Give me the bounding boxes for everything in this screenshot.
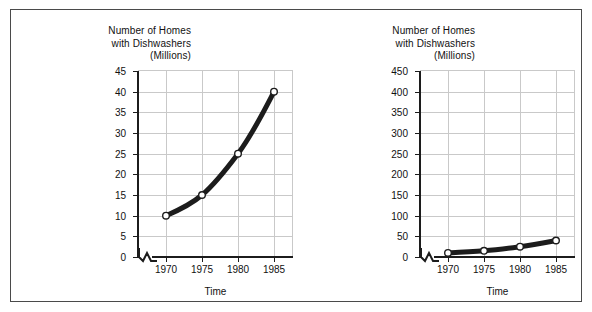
y-axis-tick: 200 [415,174,420,175]
y-axis-tick: 250 [415,154,420,155]
data-point-marker [517,243,524,250]
chart-panel-right: Number of Homes with Dishwashers (Millio… [307,10,587,303]
y-axis-tick: 20 [133,174,138,175]
x-axis-label: 1980 [227,264,249,275]
y-axis-tick: 450 [415,71,420,72]
y-axis-label: 30 [94,128,126,139]
x-axis-spine-left [152,256,293,258]
y-axis-label: 40 [94,86,126,97]
y-axis-tick: 350 [415,112,420,113]
data-point-marker [199,192,206,199]
x-axis-tick [166,257,167,262]
chart-title-line-3: (Millions) [31,50,191,63]
data-point-marker [271,88,278,95]
x-axis-label: 1970 [155,264,177,275]
series-line [166,92,274,216]
chart-title-line-3: (Millions) [315,50,475,63]
x-axis-label: 1980 [509,264,531,275]
y-axis-label: 400 [376,86,408,97]
figure-border: Number of Homes with Dishwashers (Millio… [10,9,582,302]
y-axis-label: 150 [376,190,408,201]
y-axis-tick: 45 [133,71,138,72]
y-axis-tick: 25 [133,154,138,155]
y-axis-label: 20 [94,169,126,180]
plot-area-left: 45 40 35 30 25 20 15 10 5 0 [138,70,293,256]
chart-title-line-2: with Dishwashers [31,38,191,51]
axis-break-icon [138,248,158,264]
y-axis-label: 200 [376,169,408,180]
y-axis-tick: 10 [133,216,138,217]
data-point-marker [235,150,242,157]
x-axis-label: 1985 [263,264,285,275]
x-axis-label: 1985 [545,264,567,275]
x-axis-label: 1975 [473,264,495,275]
y-axis-spine-left [137,71,139,258]
x-axis-spine-right [434,256,575,258]
plot-area-right: 450 400 350 300 250 200 150 100 50 0 [420,70,575,256]
x-axis-label: 1970 [437,264,459,275]
y-axis-tick: 30 [133,133,138,134]
y-axis-label: 35 [94,107,126,118]
y-axis-label: 25 [94,148,126,159]
y-axis-label: 100 [376,210,408,221]
x-axis-tick [448,257,449,262]
y-axis-tick: 50 [415,236,420,237]
y-axis-label: 250 [376,148,408,159]
y-axis-tick: 400 [415,92,420,93]
x-axis-title-right: Time [420,286,575,297]
y-axis-spine-right [419,71,421,258]
x-axis-label: 1975 [191,264,213,275]
y-axis-tick: 35 [133,112,138,113]
data-point-marker [163,212,170,219]
y-axis-label: 5 [94,231,126,242]
chart-title-right: Number of Homes with Dishwashers (Millio… [315,25,475,63]
chart-title-left: Number of Homes with Dishwashers (Millio… [31,25,191,63]
y-axis-label: 300 [376,128,408,139]
y-axis-tick: 15 [133,195,138,196]
figure-canvas: Number of Homes with Dishwashers (Millio… [0,0,592,312]
chart-panel-left: Number of Homes with Dishwashers (Millio… [25,10,305,303]
axis-break-icon [420,248,440,264]
x-axis-tick [520,257,521,262]
y-axis-label: 350 [376,107,408,118]
data-point-marker [481,248,488,255]
x-axis-tick [484,257,485,262]
y-axis-tick: 5 [133,236,138,237]
y-axis-tick: 300 [415,133,420,134]
y-axis-label: 15 [94,190,126,201]
y-axis-tick: 40 [133,92,138,93]
chart-title-line-1: Number of Homes [31,25,191,38]
data-series-right [420,71,575,257]
data-series-left [138,71,293,257]
series-line [448,241,556,253]
x-axis-tick [202,257,203,262]
y-axis-label: 450 [376,66,408,77]
y-axis-label: 0 [94,252,126,263]
chart-title-line-1: Number of Homes [315,25,475,38]
y-axis-label: 10 [94,210,126,221]
x-axis-tick [238,257,239,262]
y-axis-label: 50 [376,231,408,242]
y-axis-tick: 150 [415,195,420,196]
chart-title-line-2: with Dishwashers [315,38,475,51]
x-axis-title-left: Time [138,286,293,297]
y-axis-label: 45 [94,66,126,77]
y-axis-tick: 100 [415,216,420,217]
x-axis-tick [274,257,275,262]
data-point-marker [553,237,560,244]
y-axis-label: 0 [376,252,408,263]
x-axis-tick [556,257,557,262]
